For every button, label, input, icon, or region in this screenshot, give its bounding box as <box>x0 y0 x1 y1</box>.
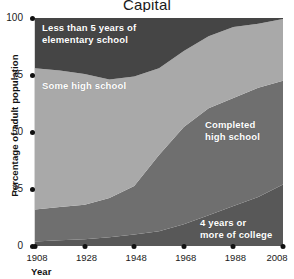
band-label-college: 4 years or more of college <box>200 217 272 240</box>
y-tick-0: 0 <box>0 240 35 252</box>
y-tick-75: 75 <box>0 69 35 81</box>
x-tick-label-2008: 2008 <box>266 252 287 263</box>
band-label-elementary: Less than 5 years of elementary school <box>42 22 136 45</box>
y-tick-50: 50 <box>0 126 35 138</box>
y-tick-label: 0 <box>17 240 23 252</box>
y-tick-label: 75 <box>12 69 23 81</box>
x-tick-label-1908: 1908 <box>26 252 47 263</box>
x-tick-label-1988: 1988 <box>225 252 246 263</box>
band-label-some-high-school: Some high school <box>42 80 126 92</box>
stacked-area-chart: Capital Percentage of adult population Y… <box>0 0 294 279</box>
x-tick-label-1928: 1928 <box>76 252 97 263</box>
x-tick-marker <box>281 244 286 249</box>
y-tick-label: 50 <box>12 126 23 138</box>
y-tick-label: 25 <box>12 183 23 195</box>
x-tick-marker <box>132 244 137 249</box>
x-tick-marker <box>181 244 186 249</box>
x-tick-label-1968: 1968 <box>175 252 196 263</box>
x-tick-label-1948: 1948 <box>126 252 147 263</box>
y-tick-label: 100 <box>6 12 23 24</box>
x-tick-marker <box>33 244 38 249</box>
band-label-completed-high-school: Completed high school <box>205 119 260 142</box>
x-axis-label: Year <box>31 266 51 277</box>
y-tick-100: 100 <box>0 12 35 24</box>
y-tick-25: 25 <box>0 183 35 195</box>
x-tick-marker <box>231 244 236 249</box>
x-tick-marker <box>82 244 87 249</box>
chart-title: Capital <box>0 0 294 12</box>
